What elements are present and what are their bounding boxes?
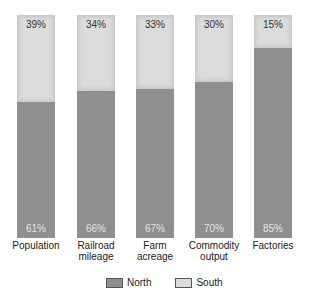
value-label-north: 85% (254, 223, 292, 234)
bar-segment-north: 67% (136, 89, 174, 238)
chart-legend: North South (106, 277, 247, 288)
bar-railroad-mileage: 34% 66% (77, 15, 115, 238)
bar-segment-south: 33% (136, 15, 174, 89)
value-label-north: 66% (77, 223, 115, 234)
value-label-south: 15% (254, 19, 292, 30)
bar-segment-north: 70% (195, 82, 233, 238)
bar-population: 39% 61% (17, 15, 55, 238)
legend-label-south: South (196, 277, 222, 288)
legend-item-south: South (175, 277, 222, 288)
value-label-south: 34% (77, 19, 115, 30)
value-label-north: 70% (195, 223, 233, 234)
bar-segment-north: 85% (254, 48, 292, 238)
value-label-south: 30% (195, 19, 233, 30)
bar-segment-south: 30% (195, 15, 233, 82)
bar-segment-north: 66% (77, 91, 115, 238)
value-label-south: 39% (17, 19, 55, 30)
value-label-north: 61% (17, 223, 55, 234)
bar-farm-acreage: 33% 67% (136, 15, 174, 238)
stacked-bar-chart: 39% 61% 34% 66% 33% 67% 30% 70% 15% (0, 0, 312, 304)
bar-segment-south: 15% (254, 15, 292, 48)
legend-swatch-north (106, 278, 123, 288)
bar-segment-south: 39% (17, 15, 55, 102)
value-label-north: 67% (136, 223, 174, 234)
bar-factories: 15% 85% (254, 15, 292, 238)
bar-segment-south: 34% (77, 15, 115, 91)
legend-label-north: North (127, 277, 151, 288)
legend-swatch-south (175, 278, 192, 288)
value-label-south: 33% (136, 19, 174, 30)
legend-item-north: North (106, 277, 151, 288)
category-label: Factories (238, 240, 308, 251)
bar-commodity-output: 30% 70% (195, 15, 233, 238)
bar-segment-north: 61% (17, 102, 55, 238)
